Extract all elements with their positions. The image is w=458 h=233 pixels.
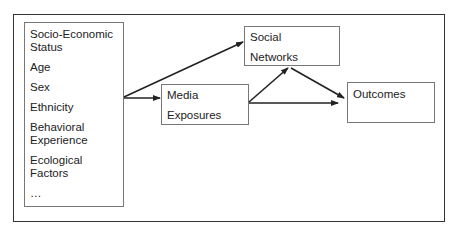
arrow-media-to-social [249,68,288,102]
arrow-social-to-outcomes [291,68,344,98]
arrow-factors-to-social [124,42,243,97]
arrows-layer [0,0,458,233]
